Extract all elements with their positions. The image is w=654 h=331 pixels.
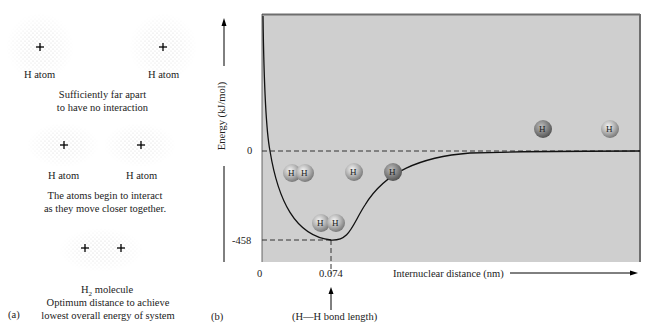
y-axis-label: Energy (kJ/mol) (216, 66, 228, 166)
y-tick-zero: 0 (247, 145, 252, 157)
y-tick-min: -458 (232, 235, 251, 247)
x-tick-bond: 0.074 (319, 268, 343, 280)
energy-plot (0, 0, 654, 331)
bond-length-note: (H—H bond length) (292, 311, 377, 323)
x-tick-zero: 0 (257, 268, 262, 280)
panel-b-label: (b) (211, 311, 223, 323)
x-axis-label: Internuclear distance (nm) (393, 268, 504, 280)
